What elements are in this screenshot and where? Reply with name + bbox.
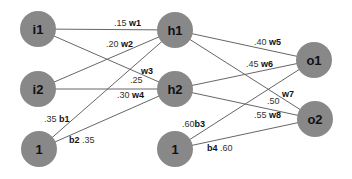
node-bias-1: 1: [21, 131, 57, 167]
node-bias-2: 1: [157, 131, 193, 167]
label-b1: .35 b1: [44, 114, 70, 124]
neural-network-diagram: .15 w1 .20 w2 w3 .25 .30 w4 .35 b1 b2 .3…: [0, 0, 352, 179]
svg-text:o2: o2: [307, 112, 322, 127]
node-h1: h1: [157, 12, 193, 48]
edge-w5: [175, 30, 314, 60]
label-w2: .20 w2: [106, 39, 133, 49]
svg-text:h2: h2: [167, 82, 182, 97]
edge-w7: [175, 30, 315, 119]
label-w7-value: .50: [267, 96, 280, 106]
label-w8: .55 w8: [254, 110, 281, 120]
label-w4: .30 w4: [117, 90, 144, 100]
node-o1: o1: [296, 42, 332, 78]
svg-text:o1: o1: [306, 53, 321, 68]
node-i1: i1: [20, 11, 56, 47]
svg-text:1: 1: [171, 142, 178, 157]
edge-w1: [38, 29, 175, 30]
label-w5: .40 w5: [254, 37, 281, 47]
label-b3: .60b3: [182, 119, 205, 129]
svg-text:h1: h1: [167, 23, 182, 38]
edge-b3: [175, 60, 314, 149]
node-i2: i2: [20, 71, 56, 107]
svg-text:1: 1: [35, 142, 42, 157]
label-w6: .45 w6: [246, 59, 273, 69]
label-b2: b2 .35: [69, 135, 95, 145]
svg-text:i2: i2: [33, 82, 44, 97]
label-w1: .15 w1: [114, 18, 141, 28]
label-w3-value: .25: [130, 75, 143, 85]
node-h2: h2: [157, 71, 193, 107]
node-o2: o2: [297, 101, 333, 137]
label-b4: b4 .60: [207, 143, 233, 153]
svg-text:i1: i1: [33, 22, 44, 37]
label-w7-name: w7: [281, 89, 294, 99]
